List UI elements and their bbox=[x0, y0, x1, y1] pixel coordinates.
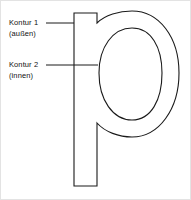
annotation-subtitle-kontur-2: (innen) bbox=[9, 71, 38, 82]
annotation-label-kontur-1: Kontur 1 (außen) bbox=[9, 18, 38, 39]
outer-contour-path bbox=[74, 11, 179, 186]
annotation-label-kontur-2: Kontur 2 (innen) bbox=[9, 60, 38, 81]
annotation-subtitle-kontur-1: (außen) bbox=[9, 29, 38, 40]
figure-canvas: Kontur 1 (außen) Kontur 2 (innen) bbox=[0, 0, 191, 200]
annotation-title-kontur-1: Kontur 1 bbox=[9, 18, 38, 29]
annotation-title-kontur-2: Kontur 2 bbox=[9, 60, 38, 71]
inner-contour-path bbox=[99, 28, 162, 120]
